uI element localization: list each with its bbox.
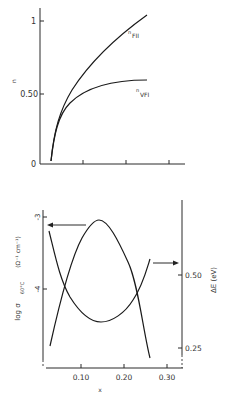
left-ytick-label-3: -3 xyxy=(34,214,42,221)
arrow-right-icon xyxy=(173,261,179,266)
top-ytick-label-050: 0.50 xyxy=(20,90,38,99)
top-ytick-label-0: 0 xyxy=(31,160,36,169)
xtick-label-010: 0.10 xyxy=(73,373,90,382)
curve-log-sigma xyxy=(50,220,150,358)
curve-delta-e xyxy=(49,231,150,322)
figure: 1 0.50 0 n n FII n VFI -3 -4 0.50 0.25 Δ… xyxy=(0,0,228,400)
left-ytick-label-4: -4 xyxy=(34,285,42,293)
label-fii-n: n xyxy=(128,29,131,35)
top-chart: 1 0.50 0 n n FII n VFI xyxy=(10,8,185,169)
right-ytick-label-050: 0.50 xyxy=(185,271,202,280)
bottom-chart: -3 -4 0.50 0.25 ΔE (eV) 0.10 0.20 0.30 x… xyxy=(14,200,218,393)
label-vfi-n: n xyxy=(136,87,139,93)
arrow-left-icon xyxy=(47,223,53,228)
right-ylabel: ΔE (eV) xyxy=(210,267,218,293)
top-ylabel: n xyxy=(10,79,17,83)
top-ytick-label-1: 1 xyxy=(31,17,36,26)
xlabel: x xyxy=(98,386,102,393)
right-ytick-label-025: 0.25 xyxy=(185,344,202,353)
curve-n-vfi xyxy=(51,80,147,161)
label-fii-sub: FII xyxy=(132,32,139,39)
left-ylabel: log σ 60°C (Ω⁻¹ cm⁻¹) xyxy=(14,236,25,320)
left-ylabel-sub: 60°C xyxy=(19,281,25,294)
xtick-label-020: 0.20 xyxy=(116,373,133,382)
xtick-label-030: 0.30 xyxy=(159,373,176,382)
left-ylabel-main: log σ xyxy=(14,303,22,321)
label-vfi-sub: VFI xyxy=(140,91,150,98)
left-ylabel-units: (Ω⁻¹ cm⁻¹) xyxy=(14,236,21,267)
